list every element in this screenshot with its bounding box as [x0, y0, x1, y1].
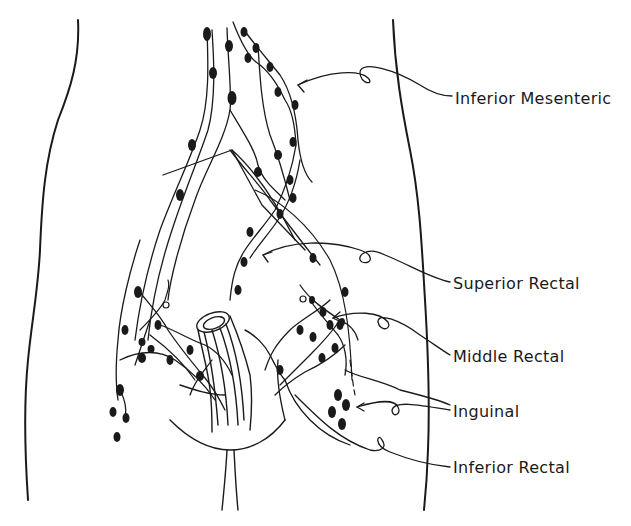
label-middle-rectal: Middle Rectal	[453, 349, 564, 365]
label-inferior-mesenteric: Inferior Mesenteric	[455, 91, 611, 107]
left-body-outline	[25, 20, 78, 500]
label-inferior-rectal: Inferior Rectal	[453, 460, 570, 476]
label-superior-rectal: Superior Rectal	[453, 276, 580, 292]
label-inguinal: Inguinal	[453, 404, 519, 420]
right-body-outline	[393, 20, 429, 510]
lymphatic-drainage-illustration	[0, 0, 631, 526]
rectum-structure	[170, 308, 285, 510]
